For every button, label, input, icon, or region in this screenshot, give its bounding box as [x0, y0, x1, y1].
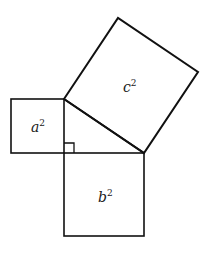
pythagorean-diagram: a2 b2 c2 — [0, 0, 208, 254]
hypotenuse — [64, 99, 144, 153]
label-c: c2 — [123, 78, 137, 95]
right-angle-marker — [64, 143, 74, 153]
label-a: a2 — [31, 118, 45, 135]
label-b: b2 — [98, 188, 113, 205]
